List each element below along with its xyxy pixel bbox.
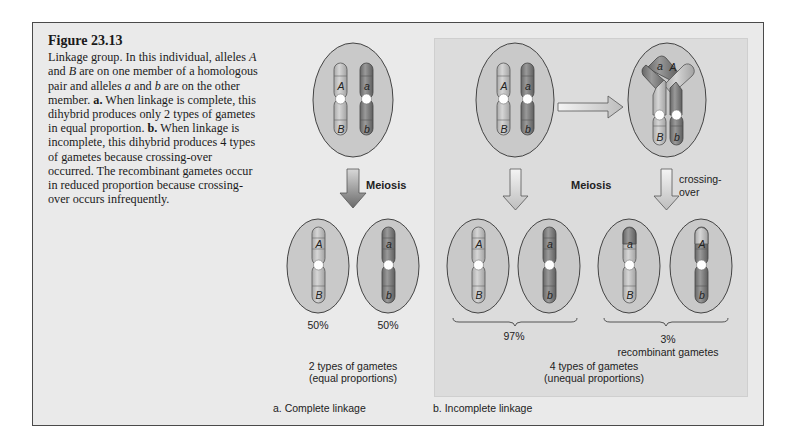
panel-a-meiosis-label: Meiosis: [366, 179, 406, 192]
allele-label: b: [522, 123, 534, 136]
allele-label: b: [696, 289, 708, 302]
allele-label: A: [667, 61, 679, 74]
panel-a-percent-left: 50%: [298, 319, 338, 332]
panel-a-parent-cell: [313, 43, 393, 157]
allele-label: B: [313, 289, 325, 302]
panel-b-parental-arrow: [503, 169, 528, 210]
allele-label: a: [654, 60, 666, 73]
panel-a-percent-right: 50%: [368, 319, 408, 332]
allele-label: a: [624, 238, 636, 251]
panel-a-summary-line2: (equal proportions): [293, 372, 413, 385]
panel-a-meiosis-arrow: [340, 169, 366, 208]
panel-a-summary-line1: 2 types of gametes: [293, 360, 413, 373]
allele-label: A: [473, 238, 485, 251]
allele-label: a: [361, 80, 373, 93]
allele-label: A: [696, 238, 708, 251]
allele-label: A: [313, 238, 325, 251]
allele-label: B: [473, 289, 485, 302]
crossing-over-label-line1: crossing-: [679, 173, 722, 186]
allele-label: b: [383, 289, 395, 302]
allele-label: a: [522, 80, 534, 93]
allele-label: B: [335, 123, 347, 136]
allele-label: b: [544, 289, 556, 302]
allele-label: a: [544, 238, 556, 251]
allele-label: B: [498, 123, 510, 136]
panel-b-parent-cell: [476, 43, 554, 157]
panel-b-crossover-arrow: [654, 169, 679, 210]
allele-label: b: [671, 131, 683, 144]
panel-a-label: a. Complete linkage: [273, 402, 366, 415]
recombinant-label: recombinant gametes: [608, 346, 728, 359]
allele-label: A: [498, 80, 510, 93]
panel-b-label: b. Incomplete linkage: [433, 402, 532, 415]
allele-label: A: [335, 80, 347, 93]
crossing-over-label-line2: over: [679, 186, 699, 199]
panel-b-summary-line1: 4 types of gametes: [514, 360, 674, 373]
recombinant-percent: 3%: [648, 333, 688, 346]
allele-label: a: [383, 238, 395, 251]
recombinant-brace: [604, 318, 728, 326]
allele-label: B: [654, 131, 666, 144]
allele-label: b: [361, 123, 373, 136]
panel-b-meiosis-label: Meiosis: [571, 179, 611, 192]
allele-label: B: [624, 289, 636, 302]
crossover-arrow: [558, 96, 623, 118]
parental-brace: [453, 318, 577, 326]
panel-b-summary-line2: (unequal proportions): [514, 372, 674, 385]
parental-percent: 97%: [494, 330, 534, 343]
